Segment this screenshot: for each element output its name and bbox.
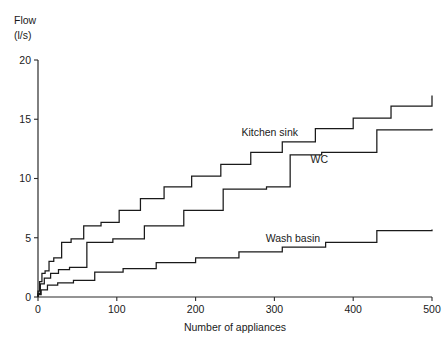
flow-vs-appliances-chart: 051015200100200300400500Flow(l/s)Number …	[0, 0, 448, 340]
x-tick-label: 100	[108, 303, 126, 315]
y-tick-label: 15	[19, 113, 31, 125]
x-tick-label: 300	[266, 303, 284, 315]
y-axis-unit: (l/s)	[14, 29, 32, 41]
series-label-wash-basin: Wash basin	[266, 232, 321, 244]
x-tick-label: 200	[187, 303, 205, 315]
x-axis-title: Number of appliances	[184, 321, 286, 333]
x-tick-label: 500	[423, 303, 441, 315]
y-tick-label: 5	[25, 232, 31, 244]
x-tick-label: 400	[344, 303, 362, 315]
y-tick-label: 0	[25, 291, 31, 303]
series-label-wc: WC	[310, 153, 328, 165]
y-tick-label: 20	[19, 54, 31, 66]
x-tick-label: 0	[35, 303, 41, 315]
y-axis-title: Flow	[14, 14, 37, 26]
series-line-wash-basin	[38, 229, 432, 297]
chart-canvas: 051015200100200300400500Flow(l/s)Number …	[0, 0, 448, 340]
y-tick-label: 10	[19, 172, 31, 184]
series-label-kitchen-sink: Kitchen sink	[241, 126, 298, 138]
series-line-kitchen-sink	[38, 96, 432, 297]
